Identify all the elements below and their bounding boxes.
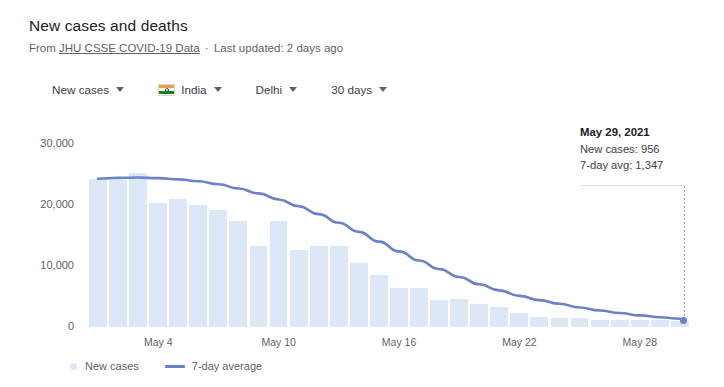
bar [189, 205, 207, 327]
x-axis-tick-label: May 28 [610, 336, 670, 348]
y-axis-tick-label: 20,000 [14, 198, 74, 210]
y-axis-tick-label: 10,000 [14, 259, 74, 271]
dropdown-region-label: Delhi [256, 83, 283, 96]
bar [370, 275, 388, 327]
dropdown-metric[interactable]: New cases [52, 83, 124, 96]
legend-swatch-bar-icon [70, 363, 77, 370]
bar [390, 288, 408, 327]
bar [631, 320, 649, 327]
india-flag-icon [158, 84, 175, 96]
legend-label-new-cases: New cases [85, 360, 139, 372]
bar [591, 320, 609, 327]
bar [571, 318, 589, 327]
bar [450, 299, 468, 327]
bar [350, 263, 368, 327]
legend-label-seven-day-average: 7-day average [192, 360, 262, 372]
dropdown-timerange-label: 30 days [331, 83, 372, 96]
tooltip-seven-day-avg: 7-day avg: 1,347 [580, 157, 692, 174]
dropdown-metric-label: New cases [52, 83, 109, 96]
from-prefix-label: From [29, 42, 56, 54]
page-title: New cases and deaths [29, 17, 188, 35]
chart-tooltip: May 29, 2021 New cases: 956 7-day avg: 1… [580, 124, 692, 174]
bar [551, 318, 569, 327]
tooltip-underline [580, 185, 684, 186]
y-axis-tick-label: 0 [14, 320, 74, 332]
bar [310, 246, 328, 327]
chevron-down-icon [379, 87, 387, 92]
chart-subtitle: From JHU CSSE COVID-19 Data · Last updat… [29, 42, 343, 54]
x-axis-tick-label: May 16 [369, 336, 429, 348]
bar [89, 179, 107, 327]
y-axis-tick-label: 30,000 [14, 137, 74, 149]
legend-item-new-cases[interactable]: New cases [70, 360, 139, 372]
dropdown-country[interactable]: India [158, 83, 221, 96]
legend-item-seven-day-average[interactable]: 7-day average [165, 360, 262, 372]
x-axis-tick-label: May 4 [128, 336, 188, 348]
bar [209, 210, 227, 327]
bar [651, 320, 669, 327]
chevron-down-icon [214, 87, 222, 92]
tooltip-new-cases: New cases: 956 [580, 141, 692, 158]
dropdown-region[interactable]: Delhi [256, 83, 298, 96]
chart-controls: New cases India Delhi 30 days [52, 83, 421, 96]
subtitle-separator: · [203, 42, 211, 54]
bar [129, 173, 147, 327]
bar [410, 288, 428, 327]
bar [290, 250, 308, 327]
tooltip-date: May 29, 2021 [580, 124, 692, 141]
bar [510, 313, 528, 327]
bar [330, 246, 348, 327]
source-link[interactable]: JHU CSSE COVID-19 Data [59, 42, 200, 54]
chart-area: 010,00020,00030,000 May 4May 10May 16May… [0, 0, 724, 387]
legend-swatch-line-icon [165, 365, 185, 368]
bar [270, 221, 288, 327]
bar [611, 320, 629, 327]
chevron-down-icon [289, 87, 297, 92]
bar [229, 221, 247, 327]
bar [149, 203, 167, 327]
bar [109, 180, 127, 327]
bar [530, 317, 548, 327]
chart-legend: New cases 7-day average [70, 360, 288, 372]
bar [430, 300, 448, 327]
dropdown-timerange[interactable]: 30 days [331, 83, 387, 96]
dropdown-country-label: India [181, 83, 206, 96]
hover-point-marker [680, 317, 687, 324]
hover-indicator-line [684, 186, 685, 322]
bar [470, 304, 488, 327]
x-axis-tick-label: May 22 [489, 336, 549, 348]
chevron-down-icon [116, 87, 124, 92]
x-axis-tick-label: May 10 [249, 336, 309, 348]
bar [169, 199, 187, 327]
bar [490, 307, 508, 327]
bar [250, 246, 268, 327]
last-updated-label: Last updated: 2 days ago [214, 42, 343, 54]
covid-chart-card: New cases and deaths From JHU CSSE COVID… [0, 0, 724, 387]
